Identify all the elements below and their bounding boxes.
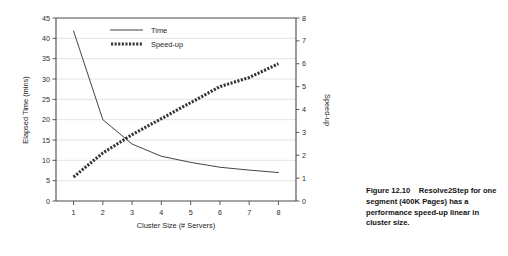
figure-container: 051015202530354045 012345678 12345678 Ti… xyxy=(0,0,508,256)
y-tick-label-right: 2 xyxy=(302,151,306,160)
y-axis-left: 051015202530354045 xyxy=(42,14,56,206)
x-tick-label: 7 xyxy=(247,208,251,217)
chart-panel: 051015202530354045 012345678 12345678 Ti… xyxy=(0,0,340,256)
x-axis: 12345678 xyxy=(72,201,281,217)
y-tick-label-right: 8 xyxy=(302,14,306,23)
y-tick-label-left: 5 xyxy=(46,176,50,185)
y-tick-label-left: 15 xyxy=(42,136,50,145)
y-tick-label-right: 7 xyxy=(302,36,306,45)
y-tick-label-right: 5 xyxy=(302,82,306,91)
y-tick-label-right: 4 xyxy=(302,105,306,114)
x-tick-label: 1 xyxy=(72,208,76,217)
y-tick-label-left: 25 xyxy=(42,95,50,104)
y-tick-label-right: 0 xyxy=(302,197,306,206)
y-axis-left-title: Elapsed Time (mins) xyxy=(21,76,30,143)
y-tick-label-right: 3 xyxy=(302,128,306,137)
figure-caption: Figure 12.10 Resolve2Step for one segmen… xyxy=(366,186,502,229)
x-tick-label: 8 xyxy=(276,208,280,217)
x-tick-label: 4 xyxy=(159,208,163,217)
y-tick-label-left: 40 xyxy=(42,34,50,43)
x-tick-label: 6 xyxy=(218,208,222,217)
y-tick-label-left: 10 xyxy=(42,156,50,165)
y-tick-label-left: 0 xyxy=(46,197,50,206)
x-axis-title: Cluster Size (# Servers) xyxy=(137,221,215,230)
y-tick-label-left: 20 xyxy=(42,115,50,124)
y-tick-label-left: 45 xyxy=(42,14,50,23)
y-axis-right: 012345678 xyxy=(296,14,306,206)
dual-axis-line-chart: 051015202530354045 012345678 12345678 Ti… xyxy=(0,0,340,256)
x-tick-label: 3 xyxy=(130,208,134,217)
legend-label-speed-up: Speed-up xyxy=(151,40,183,49)
x-tick-label: 2 xyxy=(101,208,105,217)
y-tick-label-right: 1 xyxy=(302,174,306,183)
y-axis-right-title: Speed-up xyxy=(323,94,332,126)
x-tick-label: 5 xyxy=(189,208,193,217)
legend-label-time: Time xyxy=(151,26,167,35)
y-tick-label-left: 35 xyxy=(42,54,50,63)
y-tick-label-left: 30 xyxy=(42,75,50,84)
y-tick-label-right: 6 xyxy=(302,59,306,68)
chart-legend: Time Speed-up xyxy=(110,26,183,49)
figure-caption-text: Figure 12.10 Resolve2Step for one segmen… xyxy=(366,186,502,229)
